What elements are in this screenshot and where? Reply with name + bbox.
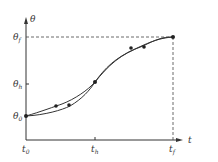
x-axis-label: t <box>188 135 192 145</box>
lower-via-point-2 <box>142 45 146 49</box>
theta-h-label: θh <box>13 79 22 90</box>
t-h-label: th <box>91 144 99 155</box>
t-f-label: tf <box>169 144 177 156</box>
upper-via-point-1 <box>54 104 58 108</box>
midpoint <box>93 80 97 84</box>
t-0-label: t0 <box>22 144 30 155</box>
end-point <box>171 35 175 39</box>
trajectory-diagram: θ t θf θh θ0 t0 th tf <box>0 0 218 162</box>
y-axis-arrow-icon <box>24 17 28 24</box>
theta-f-label: θf <box>13 32 22 44</box>
upper-via-point-2 <box>129 46 133 50</box>
lower-via-point-1 <box>67 103 71 107</box>
y-axis-label: θ <box>30 14 36 24</box>
x-axis-arrow-icon <box>176 138 183 142</box>
theta-0-label: θ0 <box>13 111 22 122</box>
lower-trajectory-curve <box>26 37 173 116</box>
start-point <box>24 114 28 118</box>
